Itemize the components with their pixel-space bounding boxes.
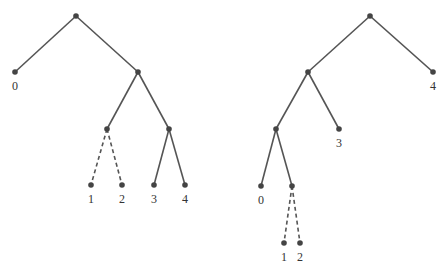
internal-node <box>367 13 373 19</box>
leaf-node <box>281 240 287 246</box>
leaf-label: 4 <box>182 192 188 206</box>
leaf-node <box>12 69 18 75</box>
leaf-node <box>119 182 125 188</box>
tree-edge <box>169 129 185 185</box>
leaf-node <box>88 182 94 188</box>
leaf-label: 0 <box>12 79 18 93</box>
tree-diagram: 0123443012 <box>0 0 447 271</box>
internal-node <box>73 13 79 19</box>
leaf-label: 3 <box>151 192 157 206</box>
dashed-edge <box>107 129 122 185</box>
internal-node <box>104 126 110 132</box>
tree-edge <box>308 72 339 129</box>
leaf-node <box>151 182 157 188</box>
internal-node <box>273 126 279 132</box>
leaf-label: 0 <box>258 193 264 207</box>
right-tree: 43012 <box>258 13 436 264</box>
tree-diagram-svg: 0123443012 <box>0 0 447 271</box>
tree-edge <box>138 72 169 129</box>
internal-node <box>305 69 311 75</box>
leaf-node <box>258 183 264 189</box>
dashed-edge <box>292 186 300 243</box>
leaf-label: 2 <box>297 250 303 264</box>
internal-node <box>135 69 141 75</box>
tree-edge <box>276 72 308 129</box>
leaf-node <box>182 182 188 188</box>
tree-edge <box>370 16 433 72</box>
leaf-node <box>336 126 342 132</box>
tree-edge <box>76 16 138 72</box>
tree-edge <box>15 16 76 72</box>
leaf-node <box>430 69 436 75</box>
leaf-label: 1 <box>88 192 94 206</box>
tree-edge <box>107 72 138 129</box>
leaf-label: 1 <box>281 250 287 264</box>
dashed-edge <box>284 186 292 243</box>
leaf-node <box>297 240 303 246</box>
tree-edge <box>308 16 370 72</box>
dashed-edge <box>91 129 107 185</box>
tree-edge <box>154 129 169 185</box>
leaf-label: 2 <box>119 192 125 206</box>
internal-node <box>289 183 295 189</box>
tree-edge <box>261 129 276 186</box>
leaf-label: 3 <box>336 136 342 150</box>
leaf-label: 4 <box>430 79 436 93</box>
internal-node <box>166 126 172 132</box>
left-tree: 01234 <box>12 13 188 206</box>
tree-edge <box>276 129 292 186</box>
